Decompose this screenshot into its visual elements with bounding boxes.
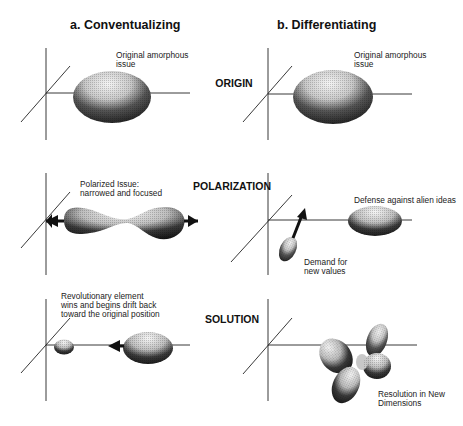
annotation-b-solution: Resolution in New Dimensions (378, 390, 445, 408)
row-label-polarization: POLARIZATION (193, 180, 271, 192)
arrow-demand-up (293, 208, 307, 238)
annotation-line: issue (354, 60, 426, 69)
ellipse-defense-against-alien-ideas (348, 206, 402, 236)
row-label-origin: ORIGIN (215, 77, 252, 89)
ellipse-original-issue-b (293, 70, 373, 124)
arrow-right-polarization (184, 215, 198, 227)
annotation-b-origin: Original amorphous issue (354, 51, 426, 69)
annotation-a-origin: Original amorphous issue (116, 51, 188, 69)
annotation-line: narrowed and focused (80, 189, 162, 198)
annotation-a-solution: Revolutionary element wins and begins dr… (61, 292, 160, 319)
dumbbell-polarized-issue (64, 207, 185, 239)
column-title-differentiating: b. Differentiating (277, 18, 376, 32)
annotation-b-demand: Demand for new values (304, 258, 347, 276)
arrow-drift-back (108, 340, 124, 352)
small-ellipse-revolutionary-element (54, 340, 74, 355)
annotation-a-polarization: Polarized Issue: narrowed and focused (80, 180, 162, 198)
annotation-line: toward the original position (61, 310, 160, 319)
annotation-line: Defense against alien ideas (354, 196, 456, 205)
annotation-line: Dimensions (378, 399, 445, 408)
annotation-line: new values (304, 267, 347, 276)
ellipse-demand-for-new-values (275, 234, 300, 264)
row-label-solution: SOLUTION (205, 313, 259, 325)
ellipse-original-issue-a (73, 71, 151, 123)
annotation-line: issue (116, 60, 188, 69)
ellipse-drifting-issue (123, 332, 173, 364)
axes-a-polarization (21, 173, 70, 275)
column-title-conventualizing: a. Conventualizing (70, 18, 180, 32)
annotation-b-defense: Defense against alien ideas (354, 196, 456, 205)
